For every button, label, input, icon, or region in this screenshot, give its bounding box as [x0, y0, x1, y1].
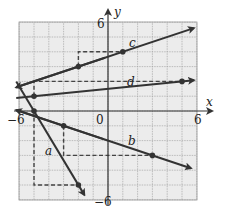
- line-a-label: a: [45, 145, 52, 157]
- x-min-tick: −6: [7, 114, 25, 126]
- line-c-label: c: [129, 37, 136, 49]
- y-min-tick: −6: [94, 196, 112, 208]
- x-axis-label: x: [206, 96, 213, 108]
- line-b-label: b: [128, 135, 136, 147]
- x-max-tick: 6: [194, 114, 202, 126]
- coordinate-plane: [0, 0, 225, 215]
- origin-label: 0: [96, 114, 104, 126]
- y-max-tick: 6: [97, 18, 105, 30]
- line-d-label: d: [127, 76, 135, 88]
- y-axis-label: y: [114, 6, 121, 18]
